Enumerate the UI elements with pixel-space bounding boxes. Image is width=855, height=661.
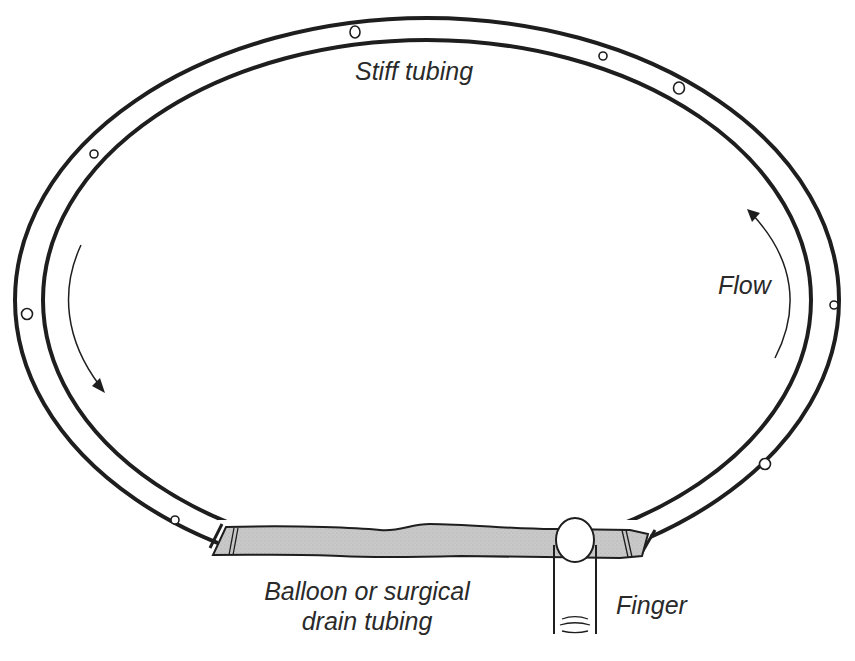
loop-diagram: [0, 0, 855, 661]
finger-label: Finger: [616, 590, 687, 620]
balloon-tubing-label-line2: drain tubing: [244, 606, 490, 636]
flow-label: Flow: [718, 270, 771, 300]
balloon-tubing-label: Balloon or surgical drain tubing: [244, 576, 490, 636]
flow-arrowhead-left-icon: [92, 378, 105, 393]
finger: [554, 518, 596, 634]
stiff-tubing-label: Stiff tubing: [355, 56, 473, 86]
flow-arrow-left: [69, 245, 100, 386]
stiff-tubing-ring: [15, 18, 839, 582]
balloon-tubing-label-line1: Balloon or surgical: [244, 576, 490, 606]
